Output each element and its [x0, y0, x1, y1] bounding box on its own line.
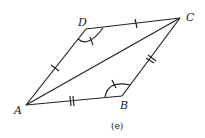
vertex-label-d: D	[77, 16, 87, 29]
vertex-label-a: A	[13, 104, 22, 117]
tick-ab-1	[70, 96, 71, 106]
tick-ab-2	[73, 96, 74, 106]
side-cd	[86, 18, 180, 29]
figure-caption: (e)	[111, 121, 123, 131]
side-da	[26, 29, 86, 105]
diagonal-ac	[26, 18, 180, 105]
quadrilateral-diagram: D C A B (e)	[0, 0, 205, 138]
vertex-label-c: C	[186, 11, 195, 24]
tick-ad	[51, 65, 59, 71]
vertex-label-b: B	[119, 99, 128, 112]
